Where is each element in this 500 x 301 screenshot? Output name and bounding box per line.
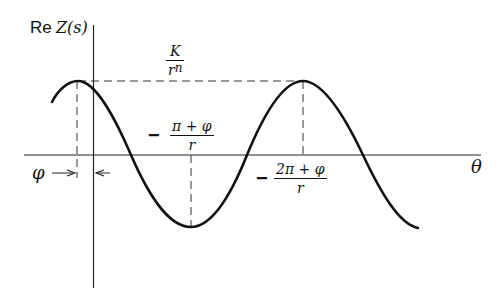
- trough-denominator: r: [186, 138, 197, 152]
- amplitude-denominator-base: r: [168, 62, 175, 78]
- amplitude-exponent: n: [175, 61, 183, 75]
- second-peak-label-sign: −: [256, 168, 268, 188]
- fraction-bar: [170, 135, 214, 136]
- amplitude-denominator: rn: [166, 63, 184, 77]
- second-peak-numerator: 2π + φ: [274, 162, 327, 176]
- trough-numerator: π + φ: [170, 119, 214, 133]
- trough-label: π + φ r: [170, 119, 214, 152]
- y-axis-label-func: Z(s): [56, 18, 88, 37]
- plot-canvas: [0, 0, 500, 301]
- trough-label-sign: −: [148, 125, 160, 145]
- fraction-bar: [274, 178, 327, 179]
- phase-label: φ: [32, 164, 45, 182]
- second-peak-denominator: r: [295, 181, 306, 195]
- amplitude-label: K rn: [166, 44, 184, 77]
- amplitude-numerator: K: [168, 44, 182, 58]
- y-axis-label: Re Z(s): [30, 19, 88, 36]
- y-axis-label-prefix: Re: [30, 18, 52, 37]
- x-axis-label: θ: [471, 158, 482, 176]
- second-peak-label: 2π + φ r: [274, 162, 327, 195]
